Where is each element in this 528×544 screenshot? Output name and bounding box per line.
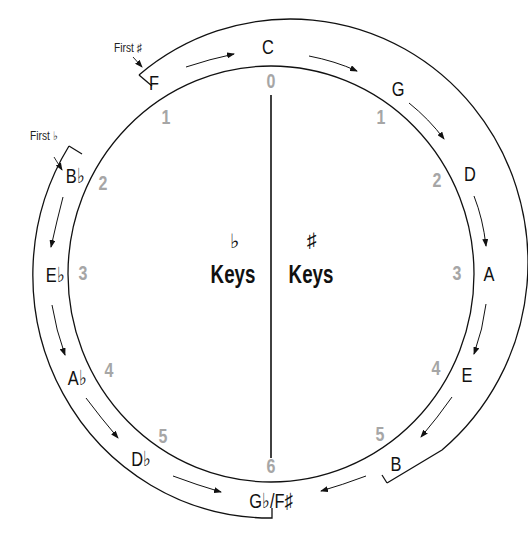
sharp-outer-arc [139,19,528,483]
count-label-eb: 3 [79,263,88,283]
key-label-bb: B♭ [66,165,85,186]
key-label-f: F [149,72,159,93]
key-label-eb: E♭ [46,264,65,285]
count-label-e: 4 [432,358,441,378]
first-flat-pointer [54,157,62,170]
arrow-d-to-a [474,196,486,246]
flat-start-bracket [69,146,82,154]
key-label-db: D♭ [131,448,151,469]
first-sharp-pointer [133,57,142,67]
count-label-c: 0 [267,71,276,91]
first-sharp-annotation: First ♯ [114,42,142,54]
sharp-symbol-icon: ♯ [307,230,317,250]
count-label-db: 5 [159,426,168,446]
count-label-d: 2 [433,170,442,190]
arrow-c-to-g [309,56,357,71]
flat-outer-arc [33,146,272,518]
key-label-c: C [262,36,274,57]
key-label-e: E [462,364,473,385]
sharp-end-bracket [382,475,387,483]
count-label-bb: 2 [99,173,108,193]
key-label-d: D [464,163,476,184]
flat-symbol-icon: ♭ [230,231,239,251]
arrow-bb-to-eb [51,197,63,247]
arrow-eb-to-ab [52,305,65,355]
key-label-g: G [392,78,405,99]
circle-of-fifths-diagram: C 0 G♭/F♯ 6 G 1 D 2 A 3 E 4 B 5 F 1 B♭ 2… [0,0,528,544]
count-label-ab: 4 [105,360,114,380]
arrow-b-to-gb [321,476,366,491]
arrow-db-to-gb [173,476,221,492]
key-label-a: A [484,263,495,284]
count-label-a: 3 [453,263,462,283]
key-label-b: B [391,453,402,474]
key-label-ab: A♭ [68,367,87,388]
first-flat-annotation: First ♭ [30,130,58,142]
arrow-a-to-e [474,304,486,354]
count-label-gb: 6 [267,456,276,476]
arrow-f-to-c [186,54,234,67]
arrow-g-to-d [409,103,444,139]
count-label-g: 1 [377,107,386,127]
key-label-gb-fsharp: G♭/F♯ [249,490,292,511]
arrow-e-to-b [421,397,452,437]
count-label-b: 5 [376,424,385,444]
count-label-f: 1 [162,107,171,127]
sharp-keys-label: Keys [289,261,334,287]
flat-keys-label: Keys [211,261,256,287]
